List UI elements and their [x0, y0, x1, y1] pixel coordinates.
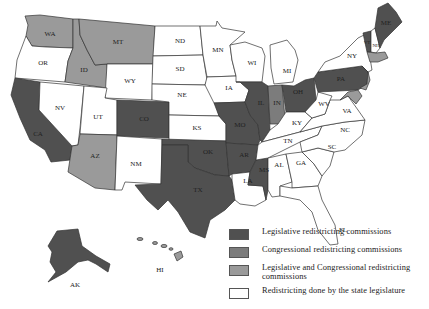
- svg-text:SD: SD: [176, 65, 185, 73]
- svg-text:TN: TN: [283, 137, 292, 145]
- svg-text:GA: GA: [296, 159, 306, 167]
- legend-swatch-legislative: [229, 229, 249, 240]
- svg-text:IA: IA: [225, 84, 232, 92]
- svg-text:ME: ME: [381, 19, 392, 27]
- svg-text:IL: IL: [258, 99, 265, 107]
- svg-text:HI: HI: [156, 266, 164, 274]
- svg-text:TX: TX: [193, 186, 202, 194]
- legend-swatch-congressional: [229, 247, 249, 258]
- svg-text:ID: ID: [80, 66, 87, 74]
- svg-text:ND: ND: [175, 37, 185, 45]
- state-AK: [48, 229, 110, 282]
- svg-text:OR: OR: [38, 59, 48, 67]
- svg-text:KY: KY: [292, 119, 302, 127]
- legend-item-both: Legislative and Congressional redistrict…: [229, 264, 429, 281]
- svg-text:VA: VA: [342, 107, 351, 115]
- svg-text:MO: MO: [234, 121, 245, 129]
- svg-text:NY: NY: [347, 52, 357, 60]
- svg-text:NC: NC: [340, 126, 350, 134]
- svg-text:AZ: AZ: [90, 152, 99, 160]
- svg-text:NV: NV: [55, 104, 65, 112]
- legend-item-legislative: Legislative redistricting commissions: [229, 228, 429, 240]
- svg-text:NM: NM: [130, 160, 142, 168]
- legend-item-legislature: Redistricting done by the state legislat…: [229, 287, 429, 299]
- svg-text:VT: VT: [364, 40, 371, 45]
- svg-text:AK: AK: [70, 281, 80, 289]
- svg-text:WA: WA: [45, 30, 56, 38]
- svg-text:UT: UT: [93, 113, 103, 121]
- state-MI: [270, 40, 298, 84]
- legend-label: Legislative redistricting commissions: [262, 228, 391, 237]
- state-MA-CT-RI: [367, 52, 388, 62]
- svg-text:MT: MT: [113, 38, 124, 46]
- legend-label: Congressional redistricting commissions: [262, 246, 402, 255]
- svg-text:WV: WV: [318, 100, 330, 108]
- legend-swatch-legislature: [229, 288, 249, 299]
- legend-label: Redistricting done by the state legislat…: [262, 287, 405, 296]
- svg-text:KS: KS: [193, 124, 202, 132]
- svg-text:PA: PA: [337, 75, 345, 83]
- svg-text:AR: AR: [239, 151, 249, 159]
- state-HI: [137, 238, 183, 262]
- svg-text:MI: MI: [283, 67, 292, 75]
- svg-text:IN: IN: [273, 99, 280, 107]
- svg-text:CA: CA: [33, 130, 43, 138]
- svg-text:MN: MN: [212, 46, 223, 54]
- svg-text:OK: OK: [203, 148, 213, 156]
- svg-text:LA: LA: [243, 177, 252, 185]
- legend-item-congressional: Congressional redistricting commissions: [229, 246, 429, 258]
- legend-label: Legislative and Congressional redistrict…: [262, 264, 412, 281]
- legend: Legislative redistricting commissions Co…: [229, 228, 429, 305]
- svg-text:NE: NE: [177, 91, 186, 99]
- svg-text:AL: AL: [274, 161, 283, 169]
- svg-text:SC: SC: [328, 143, 337, 151]
- svg-text:WI: WI: [248, 59, 258, 67]
- svg-text:OH: OH: [293, 88, 303, 96]
- svg-text:WY: WY: [124, 77, 136, 85]
- svg-text:CO: CO: [139, 115, 149, 123]
- svg-text:NH: NH: [372, 43, 380, 48]
- svg-text:MS: MS: [259, 166, 269, 174]
- legend-swatch-both: [229, 265, 249, 276]
